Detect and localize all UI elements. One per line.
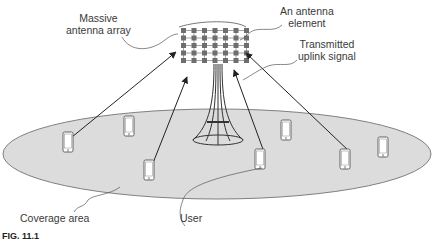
antenna-element — [181, 43, 186, 48]
antenna-element — [202, 28, 207, 33]
antenna-element — [213, 58, 218, 63]
antenna-element — [213, 43, 218, 48]
antenna-element — [192, 51, 197, 56]
antenna-element-label-line1: An antenna — [280, 5, 334, 17]
antenna-element — [213, 36, 218, 41]
antenna-element — [234, 43, 239, 48]
antenna-element — [234, 36, 239, 41]
antenna-element — [192, 58, 197, 63]
user-phone-icon — [124, 116, 134, 136]
massive-array-label: Massive antenna array — [66, 12, 131, 36]
antenna-element — [234, 58, 239, 63]
antenna-element-label: An antenna element — [280, 5, 334, 29]
figure-caption: FIG. 11.1 — [2, 231, 39, 241]
antenna-element — [234, 28, 239, 33]
antenna-element — [181, 36, 186, 41]
antenna-element — [244, 43, 249, 48]
antenna-element — [192, 28, 197, 33]
antenna-element-label-line2: element — [280, 17, 334, 29]
user-phone-icon — [281, 120, 291, 140]
antenna-element — [202, 51, 207, 56]
antenna-element — [244, 28, 249, 33]
antenna-element — [223, 58, 228, 63]
antenna-element — [181, 28, 186, 33]
antenna-element — [181, 51, 186, 56]
coverage-area-label: Coverage area — [20, 212, 89, 224]
user-phone-icon — [63, 132, 73, 152]
antenna-element — [223, 28, 228, 33]
uplink-signal-label-line2: uplink signal — [298, 50, 356, 62]
antenna-element — [223, 43, 228, 48]
antenna-element — [202, 43, 207, 48]
antenna-element — [223, 36, 228, 41]
antenna-element — [213, 28, 218, 33]
user-phone-icon — [340, 149, 350, 169]
antenna-element — [202, 36, 207, 41]
uplink-signal-label-line1: Transmitted — [298, 38, 356, 50]
antenna-element — [244, 58, 249, 63]
user-phone-icon — [378, 137, 388, 157]
antenna-element — [192, 43, 197, 48]
antenna-element — [213, 51, 218, 56]
user-phone-icon — [144, 160, 154, 180]
antenna-element — [192, 36, 197, 41]
massive-antenna-array — [179, 22, 249, 63]
antenna-element — [244, 36, 249, 41]
user-phone-icon — [255, 149, 265, 169]
antenna-element — [223, 51, 228, 56]
antenna-element — [234, 51, 239, 56]
massive-array-label-line2: antenna array — [66, 24, 131, 36]
antenna-element — [181, 58, 186, 63]
user-label: User — [180, 212, 202, 224]
massive-array-label-line1: Massive — [66, 12, 131, 24]
uplink-signal-label: Transmitted uplink signal — [298, 38, 356, 62]
antenna-element — [202, 58, 207, 63]
massive-mimo-diagram — [0, 0, 435, 241]
